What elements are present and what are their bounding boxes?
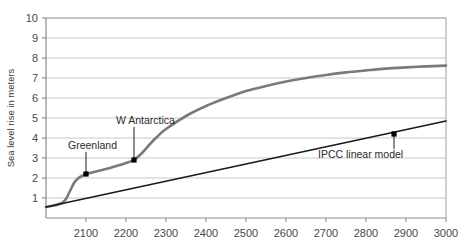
- x-tick-label-2100: 2100: [74, 227, 98, 239]
- annotation-marker-0: [83, 171, 88, 176]
- x-tick-label-2800: 2800: [354, 227, 378, 239]
- y-tick-label-5: 5: [32, 112, 38, 124]
- y-tick-label-3: 3: [32, 152, 38, 164]
- x-tick-label-2200: 2200: [114, 227, 138, 239]
- x-tick-label-2400: 2400: [194, 227, 218, 239]
- chart-background: [0, 0, 476, 244]
- y-tick-label-4: 4: [32, 132, 38, 144]
- y-tick-label-6: 6: [32, 92, 38, 104]
- y-tick-label-9: 9: [32, 32, 38, 44]
- chart-container: 12345678910 2100220023002400250026002700…: [0, 0, 476, 244]
- x-tick-label-3000: 3000: [434, 227, 458, 239]
- annotation-label-2: IPCC linear model: [318, 148, 403, 160]
- y-tick-label-8: 8: [32, 52, 38, 64]
- x-tick-label-2300: 2300: [154, 227, 178, 239]
- annotation-label-0: Greenland: [68, 139, 117, 151]
- x-tick-label-2500: 2500: [234, 227, 258, 239]
- x-tick-label-2600: 2600: [274, 227, 298, 239]
- annotation-marker-1: [131, 157, 136, 162]
- annotation-label-1: W Antarctica: [116, 114, 175, 126]
- annotation-marker-2: [391, 131, 396, 136]
- y-tick-label-7: 7: [32, 72, 38, 84]
- y-tick-label-10: 10: [26, 12, 38, 24]
- y-tick-label-1: 1: [32, 192, 38, 204]
- sea-level-rise-line-chart: 12345678910 2100220023002400250026002700…: [0, 0, 476, 244]
- x-tick-label-2700: 2700: [314, 227, 338, 239]
- y-tick-label-2: 2: [32, 172, 38, 184]
- x-tick-label-2900: 2900: [394, 227, 418, 239]
- y-axis-label: Sea level rise in meters: [5, 68, 16, 167]
